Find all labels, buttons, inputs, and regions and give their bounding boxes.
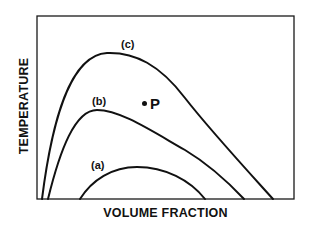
point-p-label: P [150, 96, 160, 111]
curve-c [42, 53, 273, 199]
curve-a [80, 167, 205, 199]
plot-area [0, 0, 311, 226]
curve-c-label: (c) [121, 39, 134, 50]
x-axis-label: VOLUME FRACTION [37, 206, 294, 220]
curve-b [48, 110, 244, 199]
curve-b-label: (b) [92, 96, 106, 107]
point-p-marker [142, 101, 147, 106]
y-axis-label: TEMPERATURE [17, 58, 31, 154]
curve-a-label: (a) [91, 160, 104, 171]
